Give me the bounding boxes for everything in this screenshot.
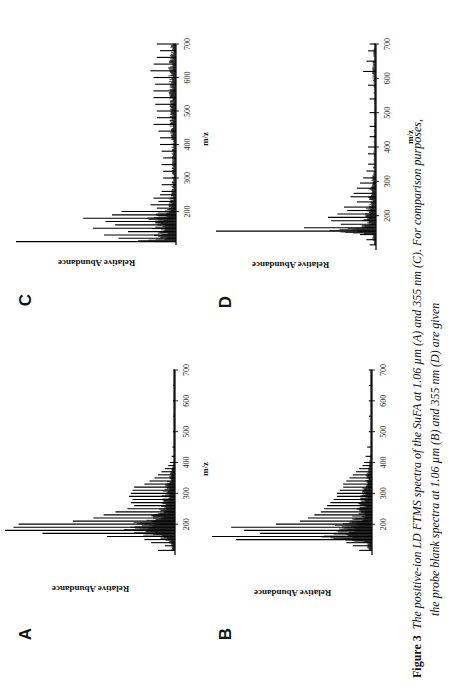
svg-text:700: 700 <box>182 364 191 376</box>
panel-letter-a: A <box>16 628 36 640</box>
spectrum-a-plot: 200300400500600700 <box>0 348 200 696</box>
svg-text:200: 200 <box>183 206 192 218</box>
panel-letter-d: D <box>216 296 236 308</box>
spectrum-b-plot: 200300400500600700 <box>200 348 400 696</box>
svg-text:300: 300 <box>182 487 191 499</box>
svg-text:500: 500 <box>383 107 392 119</box>
svg-text:600: 600 <box>182 395 191 407</box>
caption-line-2: the probe blank spectra at 1.06 µm (B) a… <box>426 36 444 678</box>
svg-text:600: 600 <box>183 72 192 84</box>
svg-text:400: 400 <box>183 139 192 151</box>
y-axis-label-d: Relative Abundance <box>252 260 329 270</box>
svg-text:700: 700 <box>383 38 392 50</box>
panel-b: 200300400500600700 B Relative Abundance … <box>200 348 400 696</box>
svg-text:500: 500 <box>379 426 388 438</box>
svg-text:500: 500 <box>182 426 191 438</box>
y-axis-label-c: Relative Abundance <box>58 258 135 268</box>
svg-text:500: 500 <box>183 105 192 117</box>
svg-text:300: 300 <box>379 487 388 499</box>
panel-letter-b: B <box>216 628 236 640</box>
figure-label: Figure 3 <box>410 635 424 678</box>
panel-d: 200300400500600700 D Relative Abundance … <box>200 0 400 348</box>
panel-a: 200300400500600700 A Relative Abundance … <box>0 348 200 696</box>
y-axis-label-b: Relative Abundance <box>254 588 331 598</box>
svg-text:400: 400 <box>182 457 191 469</box>
svg-text:700: 700 <box>183 38 192 50</box>
y-axis-label-a: Relative Abundance <box>52 584 129 594</box>
svg-text:400: 400 <box>383 141 392 153</box>
panel-letter-c: C <box>16 294 36 306</box>
svg-text:200: 200 <box>383 210 392 222</box>
svg-text:700: 700 <box>379 364 388 376</box>
panel-c: 200300400500600700 C Relative Abundance … <box>0 0 200 348</box>
svg-text:600: 600 <box>383 72 392 84</box>
caption-line-1: The positive-ion LD FTMS spectra of the … <box>410 119 424 629</box>
svg-text:200: 200 <box>182 518 191 530</box>
svg-text:300: 300 <box>383 175 392 187</box>
svg-text:200: 200 <box>379 518 388 530</box>
svg-text:400: 400 <box>379 457 388 469</box>
svg-text:600: 600 <box>379 395 388 407</box>
svg-text:300: 300 <box>183 172 192 184</box>
figure-caption: Figure 3The positive-ion LD FTMS spectra… <box>400 36 444 696</box>
